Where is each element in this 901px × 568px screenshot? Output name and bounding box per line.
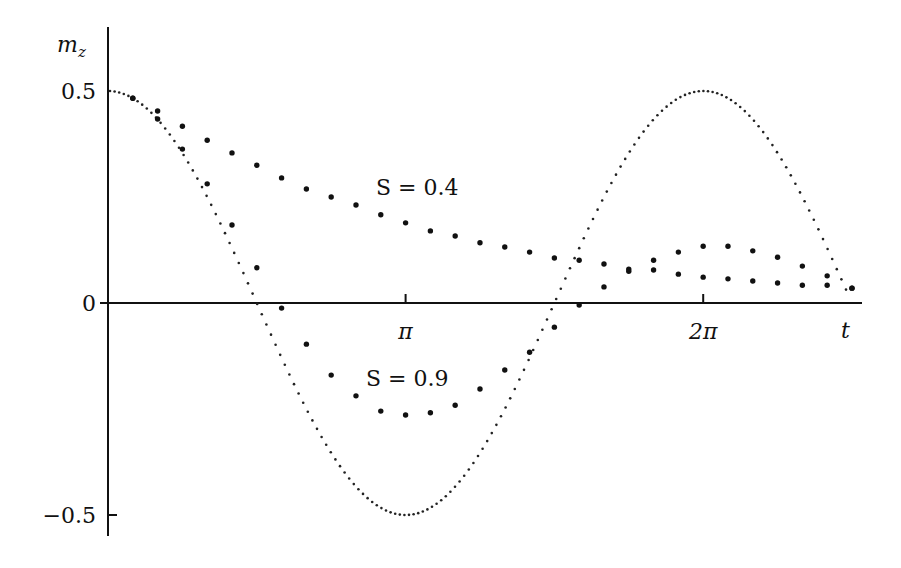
reference-curve-dot <box>311 419 314 422</box>
reference-curve-dot <box>527 359 530 362</box>
reference-curve-dot <box>422 510 425 513</box>
reference-curve-dot <box>265 323 268 326</box>
reference-curve-dot <box>592 218 595 221</box>
reference-curve-dot <box>242 272 245 275</box>
reference-curve-dot <box>440 499 443 502</box>
reference-curve-dot <box>385 509 388 512</box>
reference-curve-dot <box>215 213 218 216</box>
data-point <box>700 243 705 248</box>
reference-curve-dot <box>688 92 691 95</box>
reference-curve-dot <box>629 150 632 153</box>
reference-curve-dot <box>537 339 540 342</box>
data-point <box>353 202 358 207</box>
reference-curve-dot <box>739 106 742 109</box>
reference-curve-dot <box>785 166 788 169</box>
series-s-0-4 <box>130 96 855 291</box>
reference-curve-dot <box>693 91 696 94</box>
reference-curve-dot <box>780 158 783 161</box>
data-point <box>452 402 457 407</box>
x-tick-label: 2π <box>688 319 718 344</box>
reference-curve-dot <box>679 96 682 99</box>
reference-curve-dot <box>757 125 760 128</box>
data-point <box>304 341 309 346</box>
reference-curve-dot <box>136 100 139 103</box>
reference-curve-dot <box>123 93 126 96</box>
reference-curve-dot <box>302 401 305 404</box>
reference-curve-dot <box>366 497 369 500</box>
reference-curve-dot <box>836 268 839 271</box>
reference-curve-dot <box>233 252 236 255</box>
reference-curve-dot <box>284 363 287 366</box>
reference-curve-dot <box>481 447 484 450</box>
reference-curve-dot <box>146 107 149 110</box>
reference-curve-dot <box>196 177 199 180</box>
reference-curve-dot <box>357 488 360 491</box>
axes: π2π 0.50−0.5 <box>43 27 862 536</box>
reference-curve-dot <box>159 122 162 125</box>
reference-curve-dot <box>601 199 604 202</box>
data-point <box>576 257 581 262</box>
reference-curve-dot <box>532 349 535 352</box>
data-point <box>155 116 160 121</box>
reference-curve-dot <box>840 278 843 281</box>
data-point <box>477 240 482 245</box>
reference-curve-dot <box>813 219 816 222</box>
data-point <box>130 96 135 101</box>
reference-curve-dot <box>251 292 254 295</box>
reference-curve-dot <box>610 182 613 185</box>
reference-curve-dot <box>573 257 576 260</box>
data-point <box>800 263 805 268</box>
reference-curve-dot <box>228 242 231 245</box>
reference-curve-dot <box>587 227 590 230</box>
reference-curve-dot <box>523 369 526 372</box>
reference-curve-dot <box>458 480 461 483</box>
reference-curve-dot <box>546 318 549 321</box>
reference-curve-dot <box>334 458 337 461</box>
plot-area: π2π 0.50−0.5 mz t S = 0.4 S = 0.9 <box>0 0 901 568</box>
reference-curve-dot <box>817 228 820 231</box>
reference-curve-dot <box>652 119 655 122</box>
reference-curve-dot <box>518 378 521 381</box>
y-axis-label-main: m <box>57 32 78 57</box>
reference-curve-dot <box>615 173 618 176</box>
reference-curve-dot <box>642 130 645 133</box>
reference-curve-dot <box>270 333 273 336</box>
reference-curve-dot <box>454 486 457 489</box>
reference-curve-dot <box>684 94 687 97</box>
data-point <box>824 282 829 287</box>
data-point <box>750 248 755 253</box>
y-tick-label: 0.5 <box>61 79 96 104</box>
reference-curve-dot <box>504 406 507 409</box>
data-point <box>800 282 805 287</box>
data-point <box>527 249 532 254</box>
reference-curve-dot <box>799 191 802 194</box>
reference-curve-dot <box>389 511 392 514</box>
y-axis-label-sub: z <box>77 43 86 61</box>
reference-curve-dot <box>261 313 264 316</box>
reference-curve-dot <box>541 328 544 331</box>
reference-curve-dot <box>472 462 475 465</box>
data-point <box>378 212 383 217</box>
reference-curve-dot <box>578 247 581 250</box>
data-point <box>676 271 681 276</box>
reference-curve-dot <box>569 267 572 270</box>
reference-curve-dot <box>219 222 222 225</box>
data-point <box>403 220 408 225</box>
reference-curve-dot <box>274 343 277 346</box>
reference-curve-dot <box>514 388 517 391</box>
reference-curve-dot <box>670 102 673 105</box>
reference-curve-dot <box>297 392 300 395</box>
reference-curve-dot <box>822 238 825 241</box>
reference-curve-dot <box>744 110 747 113</box>
data-point <box>552 255 557 260</box>
annotation-s-0-9: S = 0.9 <box>366 366 448 391</box>
reference-curve-dot <box>734 102 737 105</box>
reference-curve-dot <box>468 468 471 471</box>
reference-curve-dot <box>656 114 659 117</box>
data-point <box>601 261 606 266</box>
data-point <box>527 349 532 354</box>
reference-curve-dot <box>307 410 310 413</box>
reference-curve-dot <box>426 508 429 511</box>
x-ticks: π2π <box>397 294 718 344</box>
data-point <box>502 244 507 249</box>
